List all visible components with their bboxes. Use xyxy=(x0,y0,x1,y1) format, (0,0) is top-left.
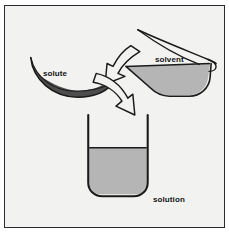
label-solution: solution xyxy=(153,195,185,204)
figure-root: solute solvent solution xyxy=(0,0,229,232)
label-solvent: solvent xyxy=(155,55,184,64)
diagram-frame: solute solvent solution xyxy=(4,5,225,228)
solution-beaker-group xyxy=(88,115,147,196)
solution-diagram-illustration xyxy=(5,6,224,227)
solution-fill-shape xyxy=(89,148,146,195)
label-solute: solute xyxy=(43,69,67,78)
solvent-fill-shape xyxy=(127,63,210,95)
